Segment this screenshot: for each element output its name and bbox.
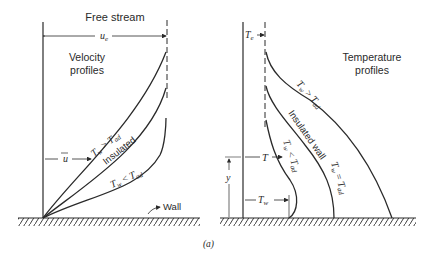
local-temp-label: T [262, 152, 269, 163]
wall-temp-label: Tw [258, 194, 269, 207]
height-dimension: y [225, 157, 241, 217]
edge-temp-label: Te [245, 29, 254, 42]
wall-pointer [148, 207, 160, 214]
edge-velocity-label: ue [100, 30, 108, 43]
velocity-wall-hatch [18, 218, 200, 226]
temp-label-hot-wall: Tw > Tad [293, 78, 325, 112]
figure-caption: (a) [203, 239, 214, 250]
velocity-profiles-label-2: profiles [70, 64, 104, 76]
velocity-panel: Free stream ue Velocity profiles Tw > Ta… [18, 11, 200, 226]
temperature-wall-hatch [220, 218, 416, 226]
temperature-profiles-label-2: profiles [355, 64, 389, 76]
temperature-profiles-label-1: Temperature [343, 51, 402, 63]
height-label: y [225, 172, 231, 183]
edge-velocity-dimension: ue [43, 30, 166, 43]
boundary-layer-diagram: Free stream ue Velocity profiles Tw > Ta… [0, 0, 438, 256]
temp-curve-hot-wall [266, 52, 392, 218]
wall-label: Wall [163, 201, 181, 212]
velocity-profiles-label-1: Velocity [69, 51, 106, 63]
local-velocity-dimension: u [45, 153, 91, 164]
temperature-panel: Te Temperature profiles Tw > Tad Insulat… [220, 22, 416, 226]
local-velocity-label: u [63, 153, 68, 164]
label-cold-wall: Tw < Tad [108, 166, 144, 192]
curve-cold-wall [43, 118, 166, 218]
wall-temp-dimension: Tw [245, 194, 289, 218]
free-stream-label: Free stream [85, 11, 144, 23]
